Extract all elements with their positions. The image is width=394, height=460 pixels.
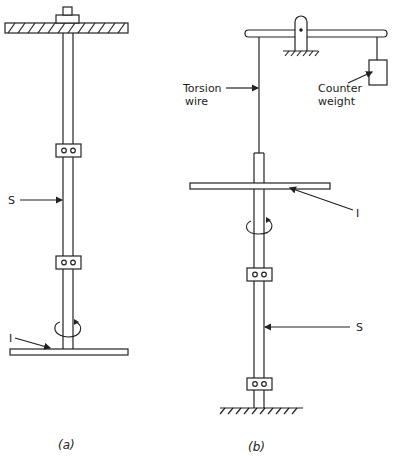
label-weight: weight [318,95,356,108]
shaft-a [63,33,73,349]
top-clamp [56,7,79,23]
inertia-disc-a [10,349,128,355]
label-s-b: S [356,321,363,334]
rotation-arrow-icon [55,319,81,337]
label-i-a: I [9,332,12,345]
caption-b: (b) [248,440,265,454]
caption-a: (a) [58,438,75,452]
clamp-upper-a [56,144,81,157]
label-torsion: Torsion [182,82,222,95]
label-counter: Counter [318,82,362,95]
rotation-arrow-icon [246,217,271,234]
label-s-a: S [8,194,15,207]
arrow-i-b [290,188,353,210]
torsion-pendulum-diagram: S I (a) [0,0,394,460]
balance-beam [245,30,387,37]
ceiling-support [5,23,128,33]
label-wire: wire [185,95,208,108]
panel-b: Counter weight Torsion wire I [182,16,387,454]
inertia-disc-b [190,183,330,189]
counterweight [369,37,387,85]
arrow-i-a [15,338,50,348]
ground-support [220,408,303,414]
panel-a: S I (a) [5,7,128,452]
clamp-upper-b [247,268,272,281]
clamp-lower-a [56,256,81,269]
label-i-b: I [356,207,359,220]
clamp-lower-b [247,378,272,390]
